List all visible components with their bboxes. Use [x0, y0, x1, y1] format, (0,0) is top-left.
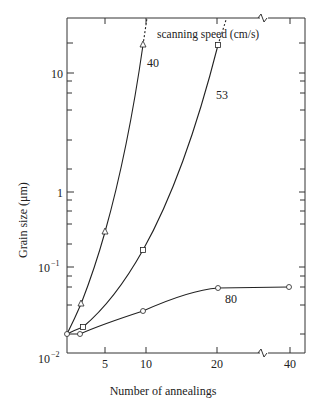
triangle-marker	[140, 41, 146, 47]
y-tick-0.1-exp: −1	[51, 259, 60, 268]
y-ticks-left	[67, 43, 74, 305]
triangle-marker	[78, 300, 84, 306]
x-tick-10: 10	[140, 357, 152, 371]
series-40	[67, 18, 147, 334]
circle-marker	[216, 286, 221, 291]
plot-frame	[67, 14, 305, 357]
y-tick-0.1: 10	[38, 261, 50, 275]
series-label-40: 40	[147, 56, 159, 70]
y-axis-title: Grain size (μm)	[16, 182, 30, 258]
y-tick-10: 10	[51, 67, 63, 81]
square-marker	[141, 248, 146, 253]
x-ticks	[105, 18, 290, 353]
circle-marker	[287, 285, 292, 290]
x-tick-20: 20	[211, 357, 223, 371]
series-label-53: 53	[216, 88, 228, 102]
y-tick-0.01-exp: −2	[51, 350, 60, 359]
x-tick-5: 5	[102, 357, 108, 371]
triangle-marker	[102, 228, 108, 234]
y-ticks-right	[299, 43, 305, 334]
circle-marker	[65, 332, 70, 337]
circle-marker	[78, 332, 83, 337]
circle-marker	[141, 309, 146, 314]
y-tick-1: 1	[57, 186, 63, 200]
series-label-80: 80	[225, 292, 237, 306]
legend-title: scanning speed (cm/s)	[157, 28, 259, 41]
x-tick-40: 40	[284, 357, 296, 371]
x-axis-title: Number of annealings	[110, 384, 217, 398]
series-80	[65, 285, 292, 337]
square-marker	[216, 43, 221, 48]
square-marker	[81, 325, 86, 330]
grain-size-chart: 10 1 10 −1 10 −2 5 10 20 40 Number of an…	[0, 0, 321, 414]
y-tick-0.01: 10	[38, 352, 50, 366]
